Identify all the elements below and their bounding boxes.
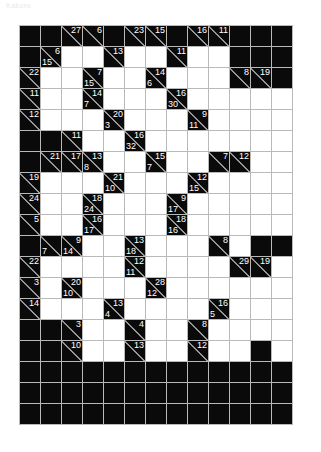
entry-cell[interactable] — [230, 299, 251, 320]
entry-cell[interactable] — [272, 131, 293, 152]
entry-cell[interactable] — [83, 131, 104, 152]
entry-cell[interactable] — [125, 194, 146, 215]
entry-cell[interactable] — [251, 215, 272, 236]
entry-cell[interactable] — [272, 257, 293, 278]
entry-cell[interactable] — [188, 236, 209, 257]
entry-cell[interactable] — [146, 173, 167, 194]
entry-cell[interactable] — [146, 299, 167, 320]
entry-cell[interactable] — [167, 131, 188, 152]
entry-cell[interactable] — [209, 341, 230, 362]
entry-cell[interactable] — [83, 257, 104, 278]
entry-cell[interactable] — [272, 341, 293, 362]
entry-cell[interactable] — [62, 194, 83, 215]
entry-cell[interactable] — [41, 89, 62, 110]
entry-cell[interactable] — [272, 110, 293, 131]
entry-cell[interactable] — [272, 194, 293, 215]
entry-cell[interactable] — [188, 152, 209, 173]
entry-cell[interactable] — [188, 299, 209, 320]
entry-cell[interactable] — [146, 89, 167, 110]
entry-cell[interactable] — [230, 215, 251, 236]
entry-cell[interactable] — [188, 278, 209, 299]
entry-cell[interactable] — [209, 320, 230, 341]
entry-cell[interactable] — [125, 278, 146, 299]
entry-cell[interactable] — [62, 89, 83, 110]
entry-cell[interactable] — [83, 320, 104, 341]
entry-cell[interactable] — [209, 47, 230, 68]
entry-cell[interactable] — [62, 173, 83, 194]
entry-cell[interactable] — [125, 110, 146, 131]
entry-cell[interactable] — [104, 236, 125, 257]
entry-cell[interactable] — [230, 194, 251, 215]
entry-cell[interactable] — [188, 68, 209, 89]
entry-cell[interactable] — [167, 278, 188, 299]
entry-cell[interactable] — [83, 236, 104, 257]
entry-cell[interactable] — [272, 89, 293, 110]
entry-cell[interactable] — [209, 173, 230, 194]
entry-cell[interactable] — [83, 299, 104, 320]
entry-cell[interactable] — [209, 68, 230, 89]
entry-cell[interactable] — [62, 47, 83, 68]
entry-cell[interactable] — [167, 68, 188, 89]
entry-cell[interactable] — [188, 47, 209, 68]
entry-cell[interactable] — [41, 215, 62, 236]
entry-cell[interactable] — [41, 110, 62, 131]
entry-cell[interactable] — [251, 131, 272, 152]
entry-cell[interactable] — [167, 236, 188, 257]
entry-cell[interactable] — [167, 110, 188, 131]
entry-cell[interactable] — [251, 278, 272, 299]
entry-cell[interactable] — [146, 47, 167, 68]
entry-cell[interactable] — [41, 173, 62, 194]
entry-cell[interactable] — [230, 341, 251, 362]
entry-cell[interactable] — [272, 173, 293, 194]
entry-cell[interactable] — [62, 215, 83, 236]
entry-cell[interactable] — [167, 341, 188, 362]
entry-cell[interactable] — [209, 194, 230, 215]
kakuro-grid[interactable]: 2762315161161513112271514681911147163012… — [19, 25, 293, 425]
entry-cell[interactable] — [83, 278, 104, 299]
entry-cell[interactable] — [104, 341, 125, 362]
entry-cell[interactable] — [230, 173, 251, 194]
entry-cell[interactable] — [104, 68, 125, 89]
entry-cell[interactable] — [251, 194, 272, 215]
entry-cell[interactable] — [146, 131, 167, 152]
entry-cell[interactable] — [230, 110, 251, 131]
entry-cell[interactable] — [62, 257, 83, 278]
entry-cell[interactable] — [251, 320, 272, 341]
entry-cell[interactable] — [188, 89, 209, 110]
entry-cell[interactable] — [104, 152, 125, 173]
entry-cell[interactable] — [272, 215, 293, 236]
entry-cell[interactable] — [62, 110, 83, 131]
entry-cell[interactable] — [41, 194, 62, 215]
entry-cell[interactable] — [104, 131, 125, 152]
entry-cell[interactable] — [146, 110, 167, 131]
entry-cell[interactable] — [146, 215, 167, 236]
entry-cell[interactable] — [230, 320, 251, 341]
entry-cell[interactable] — [209, 215, 230, 236]
entry-cell[interactable] — [251, 89, 272, 110]
entry-cell[interactable] — [146, 236, 167, 257]
entry-cell[interactable] — [146, 194, 167, 215]
entry-cell[interactable] — [41, 68, 62, 89]
entry-cell[interactable] — [251, 152, 272, 173]
entry-cell[interactable] — [272, 152, 293, 173]
entry-cell[interactable] — [209, 278, 230, 299]
entry-cell[interactable] — [125, 47, 146, 68]
entry-cell[interactable] — [272, 278, 293, 299]
entry-cell[interactable] — [125, 68, 146, 89]
entry-cell[interactable] — [104, 194, 125, 215]
entry-cell[interactable] — [188, 194, 209, 215]
entry-cell[interactable] — [83, 110, 104, 131]
entry-cell[interactable] — [83, 173, 104, 194]
entry-cell[interactable] — [209, 131, 230, 152]
entry-cell[interactable] — [209, 110, 230, 131]
entry-cell[interactable] — [167, 257, 188, 278]
entry-cell[interactable] — [62, 299, 83, 320]
entry-cell[interactable] — [230, 131, 251, 152]
entry-cell[interactable] — [83, 341, 104, 362]
entry-cell[interactable] — [146, 320, 167, 341]
entry-cell[interactable] — [251, 299, 272, 320]
entry-cell[interactable] — [230, 89, 251, 110]
entry-cell[interactable] — [188, 257, 209, 278]
entry-cell[interactable] — [188, 215, 209, 236]
entry-cell[interactable] — [146, 341, 167, 362]
